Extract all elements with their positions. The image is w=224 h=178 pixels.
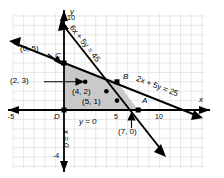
x-axis-label: x [199, 96, 203, 104]
vertex-label-C: C [55, 52, 61, 60]
x-tick-10: 10 [155, 113, 163, 120]
vertex-A [136, 108, 141, 113]
y-tick-minus4: -4 [53, 152, 59, 159]
vertex-B [115, 79, 120, 84]
callout-4-2: (4, 2) [72, 88, 91, 96]
callout-0-5: (0, 5) [20, 45, 39, 53]
point-dot-5-1 [115, 98, 120, 103]
equation-y-0: y = 0 [79, 118, 97, 126]
vertex-D [62, 108, 67, 113]
vertex-label-B: B [123, 73, 128, 81]
graph-figure: y x 10 -4 -5 5 10 A B C D (0, 5) (7, 0) … [0, 0, 224, 178]
point-dot-4-2 [104, 89, 109, 94]
callout-7-0: (7, 0) [118, 128, 137, 136]
vertex-label-D: D [54, 113, 60, 121]
callout-5-1: (5, 1) [82, 98, 101, 106]
x-tick-minus5: -5 [8, 113, 14, 120]
callout-2-3: (2, 3) [10, 77, 29, 85]
equation-x-0: x = 0 [62, 130, 70, 148]
coordinate-plane-svg [0, 0, 224, 178]
x-tick-5: 5 [114, 113, 118, 120]
vertex-label-A: A [142, 97, 147, 105]
y-tick-10: 10 [67, 14, 75, 21]
